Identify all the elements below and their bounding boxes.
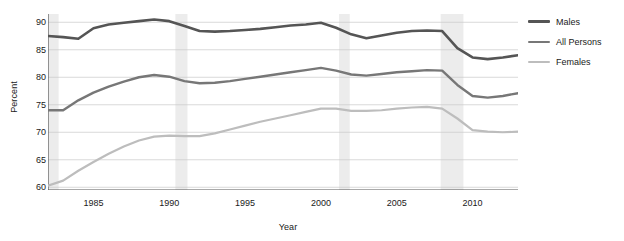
chart-legend: MalesAll PersonsFemales bbox=[528, 14, 620, 74]
legend-swatch-icon bbox=[528, 61, 550, 63]
y-tick-label-90: 90 bbox=[20, 17, 46, 27]
plot-svg bbox=[48, 14, 518, 190]
shaded-band-recession-2001 bbox=[339, 14, 350, 190]
y-tick-label-60: 60 bbox=[20, 182, 46, 192]
y-tick-label-85: 85 bbox=[20, 45, 46, 55]
y-tick-label-70: 70 bbox=[20, 127, 46, 137]
y-tick-label-80: 80 bbox=[20, 72, 46, 82]
legend-swatch-icon bbox=[528, 41, 550, 43]
legend-item-males[interactable]: Males bbox=[528, 14, 620, 29]
y-tick-label-75: 75 bbox=[20, 100, 46, 110]
shaded-band-recession-1982 bbox=[48, 14, 59, 190]
x-tick-label-2005: 2005 bbox=[374, 198, 420, 208]
x-tick-label-2010: 2010 bbox=[450, 198, 496, 208]
legend-item-all-persons[interactable]: All Persons bbox=[528, 34, 620, 49]
legend-swatch-icon bbox=[528, 20, 550, 22]
employment-rate-line-chart: Percent Year 60657075808590 MalesAll Per… bbox=[0, 0, 624, 241]
y-tick-label-65: 65 bbox=[20, 155, 46, 165]
legend-item-females[interactable]: Females bbox=[528, 54, 620, 69]
x-tick-label-1990: 1990 bbox=[146, 198, 192, 208]
y-axis-tick-labels: 60657075808590 bbox=[12, 0, 46, 241]
x-tick-label-1985: 1985 bbox=[70, 198, 116, 208]
x-tick-label-1995: 1995 bbox=[222, 198, 268, 208]
legend-item-label: Females bbox=[556, 57, 591, 67]
x-axis-title: Year bbox=[248, 222, 328, 232]
legend-item-label: Males bbox=[556, 17, 580, 27]
x-tick-label-2000: 2000 bbox=[298, 198, 344, 208]
plot-area bbox=[48, 14, 518, 190]
shaded-band-recession-1990 bbox=[175, 14, 187, 190]
legend-item-label: All Persons bbox=[556, 37, 602, 47]
